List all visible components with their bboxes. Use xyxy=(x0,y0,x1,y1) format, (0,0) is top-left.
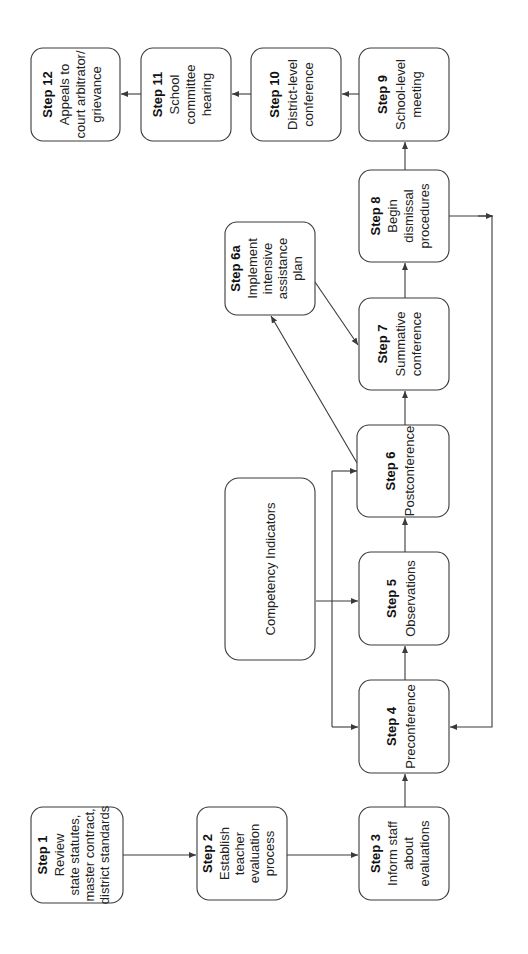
node-line: Competency Indicators xyxy=(263,502,278,635)
node-line: conference xyxy=(301,62,316,126)
node-line: Begin xyxy=(385,199,400,232)
node-line: Preconference xyxy=(403,684,418,769)
node-title: Step 1 xyxy=(35,835,50,874)
node-line: Inform staff xyxy=(385,821,400,886)
node-line: Establish xyxy=(217,827,232,880)
node-line: about xyxy=(401,837,416,870)
node-title: Step 10 xyxy=(267,71,282,117)
node-line: teacher xyxy=(232,831,247,875)
node-step8: Step 8 Begin dismissal procedures xyxy=(359,170,449,262)
node-step5: Step 5 Observations xyxy=(359,552,449,645)
node-title: Step 7 xyxy=(375,324,390,363)
node-line: grievance xyxy=(89,66,104,122)
node-step1: Step 1 Review state statutes, master con… xyxy=(31,805,123,904)
node-line: conference xyxy=(409,312,424,376)
node-line: district standards xyxy=(97,805,112,904)
node-line: Postconference xyxy=(402,426,417,516)
node-title: Step 9 xyxy=(375,75,390,114)
node-line: master contract, xyxy=(82,808,97,901)
node-line: Observations xyxy=(403,560,418,637)
node-step11: Step 11 School committee hearing xyxy=(141,48,231,141)
node-step6a: Step 6a Implement intensive assistance p… xyxy=(225,222,315,315)
node-step4: Step 4 Preconference xyxy=(359,680,449,773)
node-line: procedures xyxy=(417,183,432,249)
node-line: Implement xyxy=(245,238,260,299)
node-step6: Step 6 Postconference xyxy=(357,425,449,517)
edge-step6a-step7 xyxy=(315,282,358,345)
node-title: Step 2 xyxy=(200,834,215,873)
edge-step6-step6a xyxy=(271,316,357,463)
node-line: evaluation xyxy=(247,824,262,883)
node-line: state statutes, xyxy=(67,815,82,896)
node-line: School-level xyxy=(393,59,408,130)
node-line: committee xyxy=(183,65,198,125)
node-line: assistance xyxy=(275,238,290,299)
node-competency-indicators: Competency Indicators xyxy=(225,478,315,660)
node-title: Step 12 xyxy=(40,71,55,117)
node-line: process xyxy=(262,830,277,876)
node-line: evaluations xyxy=(417,820,432,886)
node-line: Appeals to xyxy=(57,64,72,125)
node-line: School xyxy=(167,75,182,115)
node-line: plan xyxy=(290,256,305,281)
node-line: meeting xyxy=(409,71,424,117)
node-line: hearing xyxy=(199,73,214,116)
node-title: Step 3 xyxy=(368,834,383,873)
node-title: Step 5 xyxy=(384,579,399,618)
edge-step8-step4-return xyxy=(450,216,492,727)
node-title: Step 11 xyxy=(150,72,165,118)
node-title: Step 6a xyxy=(228,245,243,292)
node-step2: Step 2 Establish teacher evaluation proc… xyxy=(197,807,287,900)
node-title: Step 4 xyxy=(384,706,399,746)
node-line: court arbitrator/ xyxy=(73,50,88,139)
node-line: intensive xyxy=(260,243,275,294)
node-line: District-level xyxy=(285,59,300,130)
node-line: Summative xyxy=(393,311,408,376)
node-step3: Step 3 Inform staff about evaluations xyxy=(359,807,449,900)
flowchart: Step 12 Appeals to court arbitrator/ gri… xyxy=(0,0,528,954)
node-step7: Step 7 Summative conference xyxy=(359,298,449,390)
node-step9: Step 9 School-level meeting xyxy=(359,48,449,141)
node-line: dismissal xyxy=(401,189,416,243)
node-title: Step 6 xyxy=(383,451,398,490)
node-line: Review xyxy=(52,833,67,876)
node-title: Step 8 xyxy=(368,196,383,235)
node-step12: Step 12 Appeals to court arbitrator/ gri… xyxy=(31,48,120,141)
node-step10: Step 10 District-level conference xyxy=(251,48,341,141)
